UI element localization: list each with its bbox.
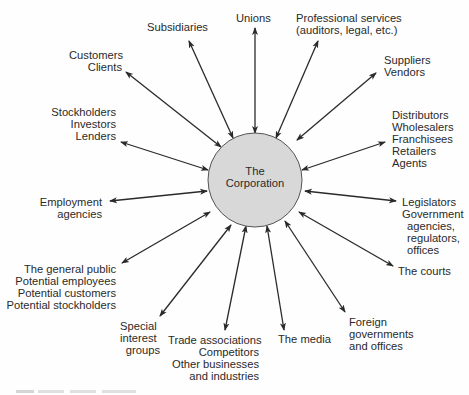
label-line: Unions — [236, 12, 271, 24]
label-professional-services: Professional services (auditors, legal, … — [296, 12, 402, 36]
stakeholder-diagram: The Corporation Subsidiaries Unions Prof… — [0, 0, 469, 395]
label-general-public: The general public Potential employees P… — [6, 263, 116, 311]
label-unions: Unions — [236, 12, 271, 24]
label-line: Foreign — [349, 316, 414, 328]
label-line: Lenders — [46, 130, 116, 142]
label-line: and industries — [168, 370, 259, 382]
label-courts: The courts — [398, 265, 451, 277]
label-line: Stockholders — [46, 106, 116, 118]
label-line: regulators, — [402, 232, 464, 244]
label-line: governments — [349, 328, 414, 340]
label-foreign-governments: Foreign governments and offices — [349, 316, 414, 352]
label-line: agencies — [38, 208, 102, 220]
arrow-foreign-governments — [285, 221, 345, 312]
arrow-stockholders — [121, 142, 208, 170]
label-line: Agents — [392, 157, 454, 169]
label-line: Investors — [46, 118, 116, 130]
arrow-suppliers — [297, 73, 376, 140]
arrow-special-interest — [160, 225, 231, 316]
label-line: The general public — [6, 263, 116, 275]
label-customers: Customers Clients — [69, 49, 122, 73]
label-line: Professional services — [296, 12, 402, 24]
source-note-cutoff — [16, 389, 136, 395]
label-line: Special — [120, 320, 160, 332]
label-media: The media — [278, 333, 331, 345]
arrow-legislators — [305, 191, 396, 201]
arrow-subsidiaries — [189, 41, 233, 138]
arrow-courts — [299, 212, 393, 266]
label-employment-agencies: Employment agencies — [38, 196, 102, 220]
label-line: Distributors — [392, 109, 454, 121]
label-line: The courts — [398, 265, 451, 277]
label-line: Potential employees — [6, 275, 116, 287]
corporation-label: The Corporation — [208, 165, 302, 189]
label-stockholders: Stockholders Investors Lenders — [46, 106, 116, 142]
label-line: and offices — [349, 340, 414, 352]
label-line: Potential customers — [6, 287, 116, 299]
arrow-media — [267, 226, 284, 330]
label-line: Other businesses — [168, 358, 259, 370]
label-line: Customers — [69, 49, 122, 61]
label-legislators: Legislators Government agencies, regulat… — [402, 196, 464, 256]
label-line: Retailers — [392, 145, 454, 157]
label-line: Trade associations — [168, 334, 259, 346]
arrow-distributors — [302, 142, 385, 170]
arrow-trade-associations — [225, 226, 246, 330]
label-line: Suppliers — [384, 54, 431, 66]
label-line: Franchisees — [392, 133, 454, 145]
label-line: Clients — [69, 61, 122, 73]
label-subsidiaries: Subsidiaries — [147, 21, 208, 33]
label-line: Employment — [38, 196, 102, 208]
label-line: The media — [278, 333, 331, 345]
label-line: Legislators — [402, 196, 464, 208]
label-line: Potential stockholders — [6, 299, 116, 311]
center-line: The — [208, 165, 302, 177]
label-line: offices — [402, 244, 464, 256]
arrow-professional-services — [276, 41, 318, 138]
label-line: agencies, — [402, 220, 464, 232]
label-suppliers: Suppliers Vendors — [384, 54, 431, 78]
arrow-general-public — [122, 212, 210, 263]
label-line: Government — [402, 208, 464, 220]
label-distributors: Distributors Wholesalers Franchisees Ret… — [392, 109, 454, 169]
label-trade-associations: Trade associations Competitors Other bus… — [168, 334, 259, 382]
center-line: Corporation — [208, 177, 302, 189]
label-line: interest — [120, 332, 160, 344]
label-special-interest: Special interest groups — [120, 320, 160, 356]
label-line: groups — [120, 344, 160, 356]
label-line: Competitors — [168, 346, 259, 358]
label-line: Wholesalers — [392, 121, 454, 133]
label-line: Vendors — [384, 66, 431, 78]
arrow-customers — [126, 72, 221, 147]
label-line: Subsidiaries — [147, 21, 208, 33]
label-line: (auditors, legal, etc.) — [296, 24, 402, 36]
arrow-employment-agencies — [110, 191, 207, 201]
